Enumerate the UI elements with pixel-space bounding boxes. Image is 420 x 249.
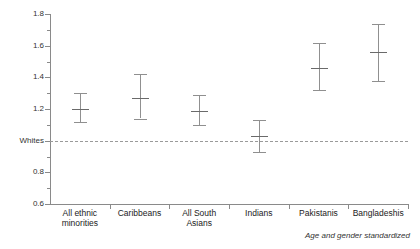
- error-bar-lower-cap: [372, 81, 385, 82]
- x-axis-label-line1: Pakistanis: [289, 208, 349, 218]
- y-tick: [45, 14, 50, 15]
- error-bar-upper-cap: [193, 95, 206, 96]
- x-axis-label-line2: Asians: [169, 218, 229, 228]
- y-tick: [47, 188, 50, 189]
- y-tick: [47, 125, 50, 126]
- x-axis-label-all-ethnic-minorities: All ethnicminorities: [50, 208, 110, 228]
- y-tick-label: 0.8: [0, 168, 44, 176]
- error-bar-upper-cap: [372, 24, 385, 25]
- x-axis-label-line1: Caribbeans: [110, 208, 170, 218]
- y-tick: [45, 77, 50, 78]
- error-bar-upper-cap: [74, 93, 87, 94]
- error-bar-stem: [80, 93, 81, 122]
- error-bar-lower-cap: [313, 90, 326, 91]
- data-point-marker: [72, 109, 89, 110]
- y-tick: [45, 172, 50, 173]
- data-point-marker: [311, 68, 328, 69]
- y-tick-label: 1.2: [0, 105, 44, 113]
- y-tick-label: 1.6: [0, 42, 44, 50]
- x-axis-label-bangladeshis: Bangladeshis: [348, 208, 408, 218]
- data-point-marker: [132, 98, 149, 99]
- x-axis-label-line1: All South: [169, 208, 229, 218]
- y-tick: [45, 109, 50, 110]
- data-point-marker: [370, 52, 387, 53]
- y-tick: [45, 46, 50, 47]
- y-tick-label: 1.4: [0, 73, 44, 81]
- y-tick-label: 0.6: [0, 200, 44, 208]
- error-bar-upper-cap: [253, 120, 266, 121]
- error-bar-lower-cap: [134, 119, 147, 120]
- x-axis-label-line1: Indians: [229, 208, 289, 218]
- x-axis-label-caribbeans: Caribbeans: [110, 208, 170, 218]
- data-point-marker: [251, 136, 268, 137]
- error-bar-lower-cap: [193, 125, 206, 126]
- x-axis-separator-tick: [408, 204, 409, 209]
- error-bar-upper-cap: [134, 74, 147, 75]
- data-point-marker: [191, 111, 208, 112]
- y-axis-line: [50, 14, 51, 204]
- x-axis-label-indians: Indians: [229, 208, 289, 218]
- y-tick: [47, 93, 50, 94]
- x-axis-label-all-south-asians: All SouthAsians: [169, 208, 229, 228]
- y-tick-label: 1.8: [0, 10, 44, 18]
- chart-annotation: Age and gender standardized: [305, 231, 410, 240]
- error-bar-lower-cap: [253, 152, 266, 153]
- y-tick: [47, 62, 50, 63]
- x-axis-label-line1: All ethnic: [50, 208, 110, 218]
- chart-container: 1.81.61.41.2Whites0.80.6 All ethnicminor…: [0, 0, 420, 249]
- y-tick: [45, 204, 50, 205]
- error-bar-stem: [319, 43, 320, 91]
- y-axis-label-whites: Whites: [0, 137, 44, 145]
- x-axis-label-line1: Bangladeshis: [348, 208, 408, 218]
- y-tick: [47, 157, 50, 158]
- error-bar-upper-cap: [313, 43, 326, 44]
- error-bar-lower-cap: [74, 122, 87, 123]
- y-tick: [47, 30, 50, 31]
- x-axis-label-line2: minorities: [50, 218, 110, 228]
- x-axis-label-pakistanis: Pakistanis: [289, 208, 349, 218]
- error-bar-stem: [140, 74, 141, 118]
- whites-reference-dashed-line: [50, 141, 408, 142]
